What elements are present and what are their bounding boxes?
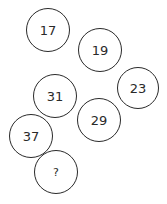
puzzle-canvas: 17 19 23 31 29 37 ? — [0, 0, 167, 204]
circle-label: 23 — [130, 82, 147, 95]
unknown-circle: ? — [34, 150, 78, 194]
circle-label: 29 — [91, 114, 108, 127]
number-circle-19: 19 — [78, 28, 122, 72]
number-circle-17: 17 — [26, 8, 70, 52]
question-mark-label: ? — [53, 167, 59, 178]
circle-label: 37 — [23, 130, 40, 143]
circle-label: 19 — [92, 44, 109, 57]
circle-label: 31 — [47, 90, 64, 103]
number-circle-29: 29 — [77, 98, 121, 142]
number-circle-31: 31 — [33, 74, 77, 118]
circle-label: 17 — [40, 24, 57, 37]
number-circle-23: 23 — [117, 67, 159, 109]
